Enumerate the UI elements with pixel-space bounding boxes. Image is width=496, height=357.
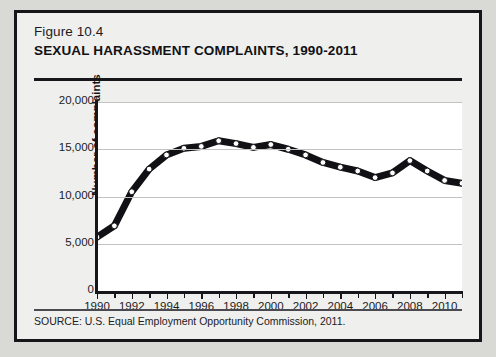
data-point-marker <box>146 166 152 172</box>
x-axis-tick-minor <box>253 294 254 298</box>
series-line <box>97 141 462 237</box>
data-point-marker <box>320 160 326 166</box>
data-point-marker <box>337 164 343 170</box>
data-point-marker <box>268 142 274 148</box>
x-axis-tick <box>201 294 202 299</box>
figure-number: Figure 10.4 <box>34 23 454 40</box>
data-point-marker <box>407 158 413 164</box>
source-note: SOURCE: U.S. Equal Employment Opportunit… <box>34 315 345 327</box>
data-point-marker <box>442 178 448 184</box>
x-axis-tick <box>340 294 341 299</box>
data-point-marker <box>164 152 170 158</box>
x-axis-tick-minor <box>427 294 428 298</box>
figure-card: Figure 10.4 SEXUAL HARASSMENT COMPLAINTS… <box>14 10 482 342</box>
x-axis-tick <box>445 294 446 299</box>
x-axis-tick-minor <box>392 294 393 298</box>
y-axis-tick-label: 5,000 <box>42 236 94 248</box>
x-axis-tick <box>167 294 168 299</box>
gridline <box>97 244 462 245</box>
x-axis-tick <box>236 294 237 299</box>
title-block: Figure 10.4 SEXUAL HARASSMENT COMPLAINTS… <box>34 23 454 60</box>
plot-area <box>97 102 462 291</box>
data-point-marker <box>216 138 222 144</box>
x-axis-tick <box>271 294 272 299</box>
gridline <box>97 102 462 103</box>
data-point-marker <box>129 189 135 195</box>
y-axis-tick-label: 20,000 <box>42 94 94 106</box>
x-axis-tick <box>410 294 411 299</box>
y-axis-tick-label: 10,000 <box>42 189 94 201</box>
source-divider <box>34 309 462 311</box>
x-axis-tick <box>375 294 376 299</box>
data-point-marker <box>424 168 430 174</box>
figure-title: SEXUAL HARASSMENT COMPLAINTS, 1990-2011 <box>34 42 454 60</box>
gridline <box>97 197 462 198</box>
x-axis-tick-minor <box>358 294 359 298</box>
y-axis-tick-label: 0 <box>42 283 94 295</box>
data-point-marker <box>111 223 117 229</box>
y-axis-tick-labels: 05,00010,00015,00020,000 <box>34 85 94 309</box>
chart-region: Number of complaints 05,00010,00015,0002… <box>34 85 462 309</box>
x-axis-tick-minor <box>323 294 324 298</box>
x-axis-tick-minor <box>288 294 289 298</box>
data-point-marker <box>303 152 309 158</box>
data-point-marker <box>372 175 378 181</box>
x-axis-tick <box>132 294 133 299</box>
x-axis-tick-minor <box>114 294 115 298</box>
y-axis-tick-label: 15,000 <box>42 141 94 153</box>
x-axis-tick-minor <box>184 294 185 298</box>
data-point-marker <box>390 170 396 176</box>
data-point-marker <box>459 180 462 186</box>
x-axis-tick <box>97 294 98 299</box>
gridline <box>97 149 462 150</box>
x-axis-tick-minor <box>149 294 150 298</box>
data-point-marker <box>355 168 361 174</box>
x-axis-tick <box>306 294 307 299</box>
x-axis-tick-minor <box>462 294 463 298</box>
y-axis-line <box>95 100 98 294</box>
data-point-marker <box>233 141 239 147</box>
x-axis-tick-minor <box>219 294 220 298</box>
